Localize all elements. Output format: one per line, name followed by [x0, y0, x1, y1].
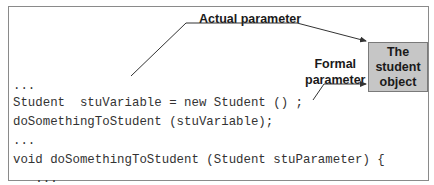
arrows-layer — [0, 0, 434, 185]
formal-parameter-arrow — [313, 84, 366, 100]
actual-parameter-arrow — [131, 23, 366, 76]
